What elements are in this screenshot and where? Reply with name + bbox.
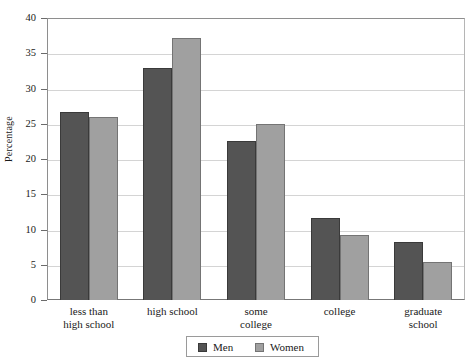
bars-layer [47, 18, 465, 300]
legend-label-women: Women [270, 341, 304, 353]
y-tick-mark [41, 300, 47, 301]
bar-chart: Percentage 0510152025303540 less thanhig… [0, 0, 474, 363]
legend-label-men: Men [213, 341, 233, 353]
y-tick-label: 15 [10, 189, 36, 199]
bar-men-high-school [143, 68, 172, 300]
bar-women-high-school [172, 38, 201, 300]
legend: Men Women [186, 336, 319, 357]
y-tick-label: 40 [10, 13, 36, 23]
y-tick-label: 0 [10, 295, 36, 305]
bar-women-less-than-high-school [89, 117, 118, 300]
x-category-label: graduateschool [368, 305, 474, 331]
y-tick-label: 30 [10, 84, 36, 94]
bar-men-college [311, 218, 340, 300]
legend-item-women: Women [255, 340, 304, 354]
bar-men-less-than-high-school [60, 112, 89, 300]
y-tick-label: 10 [10, 225, 36, 235]
bar-women-some-college [256, 124, 285, 300]
y-tick-label: 5 [10, 260, 36, 270]
legend-item-men: Men [198, 340, 233, 354]
y-tick-label: 25 [10, 119, 36, 129]
bar-women-college [340, 235, 369, 300]
bar-men-graduate-school [394, 242, 423, 300]
women-swatch-icon [255, 343, 264, 352]
y-tick-label: 35 [10, 48, 36, 58]
y-axis-title: Percentage [1, 94, 17, 184]
men-swatch-icon [198, 343, 207, 352]
y-tick-label: 20 [10, 154, 36, 164]
bar-men-some-college [227, 141, 256, 300]
bar-women-graduate-school [423, 262, 452, 300]
